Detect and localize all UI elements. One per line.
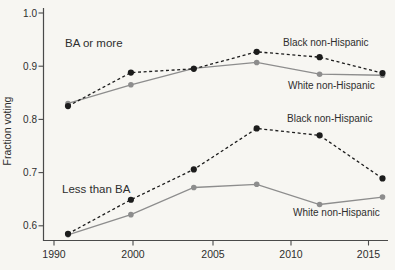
data-point-less-than-ba-white-non-hispanic	[128, 212, 134, 218]
data-point-ba-or-more-black-non-hispanic	[379, 70, 385, 76]
series-label-lt-black: Black non-Hispanic	[287, 113, 373, 124]
series-label-ba-black: Black non-Hispanic	[283, 37, 369, 48]
series-label-ba-white: White non-Hispanic	[288, 80, 375, 91]
y-tick-label: 1.0	[23, 8, 37, 19]
data-point-ba-or-more-white-non-hispanic	[254, 60, 260, 66]
data-point-less-than-ba-black-non-hispanic	[191, 166, 197, 172]
fraction-voting-line-chart: 1.00.90.80.70.619902000200520102015Fract…	[0, 0, 395, 270]
data-point-less-than-ba-black-non-hispanic	[379, 175, 385, 181]
data-point-ba-or-more-black-non-hispanic	[191, 66, 197, 72]
group-label-less-than-ba: Less than BA	[62, 183, 131, 195]
y-tick-label: 0.6	[23, 220, 37, 231]
x-tick-label: 1990	[42, 248, 66, 260]
data-point-less-than-ba-black-non-hispanic	[254, 125, 260, 131]
data-point-less-than-ba-white-non-hispanic	[380, 194, 386, 200]
data-point-ba-or-more-white-non-hispanic	[128, 82, 134, 88]
data-point-ba-or-more-black-non-hispanic	[128, 69, 134, 75]
data-point-less-than-ba-white-non-hispanic	[191, 185, 197, 191]
data-point-less-than-ba-black-non-hispanic	[128, 197, 134, 203]
series-line-ba-or-more-black-non-hispanic	[68, 52, 383, 106]
y-axis-title: Fraction voting	[1, 96, 13, 165]
data-point-ba-or-more-black-non-hispanic	[317, 54, 323, 60]
group-label-ba-or-more: BA or more	[65, 37, 123, 49]
figure-container: 1.00.90.80.70.619902000200520102015Fract…	[0, 0, 395, 270]
x-tick-label: 2005	[201, 248, 225, 260]
x-tick-label: 2010	[279, 248, 303, 260]
y-tick-label: 0.7	[23, 167, 37, 178]
series-label-lt-white: White non-Hispanic	[293, 207, 380, 218]
data-point-ba-or-more-black-non-hispanic	[254, 49, 260, 55]
data-point-ba-or-more-black-non-hispanic	[65, 103, 71, 109]
data-point-ba-or-more-white-non-hispanic	[317, 71, 323, 77]
x-tick-label: 2000	[121, 248, 145, 260]
y-tick-label: 0.8	[23, 114, 37, 125]
data-point-less-than-ba-black-non-hispanic	[317, 132, 323, 138]
data-point-less-than-ba-white-non-hispanic	[254, 182, 260, 188]
y-tick-label: 0.9	[23, 61, 37, 72]
x-tick-label: 2015	[357, 248, 381, 260]
data-point-less-than-ba-black-non-hispanic	[65, 231, 71, 237]
